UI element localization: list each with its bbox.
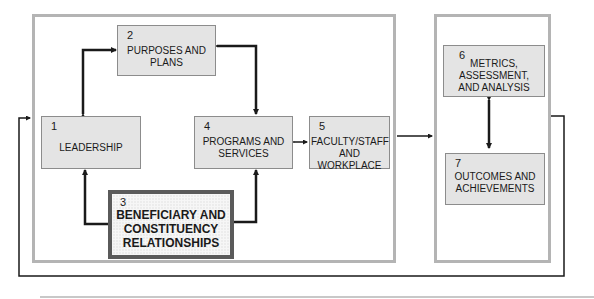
page-divider — [40, 296, 594, 298]
box-label-line: BENEFICIARY AND — [112, 208, 230, 222]
box-label-line: PROGRAMS AND — [199, 136, 288, 148]
box-label-line: PURPOSES AND — [122, 45, 211, 57]
box-label-line: RELATIONSHIPS — [112, 236, 230, 250]
box-number: 1 — [51, 120, 57, 132]
box-label-line: SERVICES — [199, 148, 288, 160]
box-label-line: LEADERSHIP — [46, 142, 136, 154]
box-label-line: AND ANALYSIS — [448, 82, 540, 94]
box-beneficiary-constituency-relationships: 3 BENEFICIARY AND CONSTITUENCY RELATIONS… — [108, 190, 234, 259]
box-number: 2 — [127, 29, 133, 41]
box-label-line: OUTCOMES AND — [450, 171, 540, 183]
box-purposes-and-plans: 2 PURPOSES AND PLANS — [117, 25, 216, 76]
box-metrics-assessment-analysis: 6 METRICS, ASSESSMENT, AND ANALYSIS — [443, 45, 545, 97]
box-programs-and-services: 4 PROGRAMS AND SERVICES — [194, 116, 293, 169]
box-label-line: CONSTITUENCY — [112, 222, 230, 236]
box-leadership: 1 LEADERSHIP — [41, 116, 141, 169]
box-number: 3 — [120, 196, 126, 208]
box-label-line: ASSESSMENT, — [448, 70, 540, 82]
box-label-line: AND WORKPLACE — [311, 148, 388, 172]
box-label-line: FACULTY/STAFF — [311, 136, 388, 148]
box-number: 7 — [455, 157, 461, 169]
box-faculty-staff-workplace: 5 FACULTY/STAFF AND WORKPLACE — [309, 116, 390, 169]
box-outcomes-achievements: 7 OUTCOMES AND ACHIEVEMENTS — [445, 153, 545, 205]
box-label-line: ACHIEVEMENTS — [450, 183, 540, 195]
box-label-line: METRICS, — [448, 58, 540, 70]
box-label-line: PLANS — [122, 57, 211, 69]
box-number: 4 — [204, 120, 210, 132]
box-number: 5 — [319, 120, 325, 132]
